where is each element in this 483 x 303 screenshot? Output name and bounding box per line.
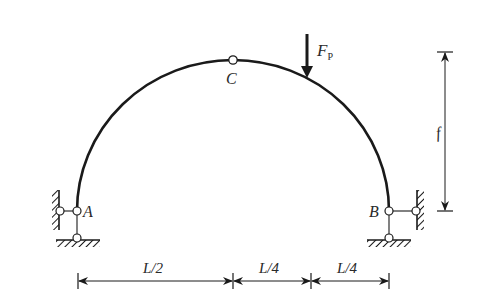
- label-c: C: [226, 70, 237, 87]
- load-label: FP: [316, 41, 333, 62]
- label-b: B: [369, 203, 379, 220]
- span-label-1: L/2: [142, 260, 164, 276]
- rise-label: f: [435, 124, 444, 143]
- hinge-c: [229, 56, 237, 64]
- arch-diagram: C FP A B: [0, 0, 483, 303]
- support-a: [52, 190, 100, 247]
- span-label-2: L/4: [258, 260, 280, 276]
- span-label-3: L/4: [336, 260, 358, 276]
- label-a: A: [82, 203, 93, 220]
- load-arrow: [301, 34, 313, 78]
